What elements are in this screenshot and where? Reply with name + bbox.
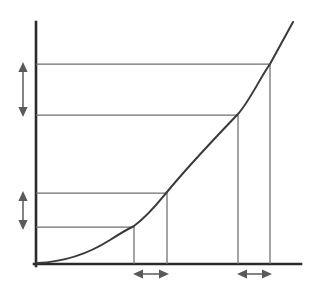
convex-curve-diagram <box>0 0 318 295</box>
upper-y-interval-arrow <box>18 62 27 117</box>
lower-x-interval-arrow <box>133 269 169 278</box>
upper-y-interval-arrowhead-bottom <box>18 107 27 117</box>
figure-root <box>0 0 318 295</box>
lower-y-interval-arrowhead-top <box>18 191 27 201</box>
lower-x-interval-arrowhead-right <box>159 269 169 278</box>
guide-lines-group <box>36 64 270 227</box>
lower-x-interval-arrowhead-left <box>133 269 143 278</box>
upper-y-interval-arrowhead-top <box>18 62 27 72</box>
upper-x-interval-arrow <box>237 269 272 278</box>
lower-y-interval-arrowhead-bottom <box>18 220 27 230</box>
upper-x-interval-arrowhead-left <box>237 269 247 278</box>
lower-y-interval-arrow <box>18 191 27 230</box>
upper-x-interval-arrowhead-right <box>262 269 272 278</box>
vertical-measure-arrows-group <box>18 62 27 230</box>
drop-lines-group <box>134 64 270 264</box>
horizontal-measure-arrows-group <box>133 269 272 278</box>
